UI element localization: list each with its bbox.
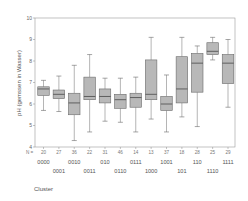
n-count: 20: [41, 150, 47, 155]
iqr-box: [161, 96, 173, 110]
n-count: 46: [118, 150, 124, 155]
n-count: 25: [210, 150, 216, 155]
category-label: 1110: [207, 168, 219, 174]
n-count: 29: [225, 150, 231, 155]
n-count: 14: [133, 150, 139, 155]
category-label: 0110: [114, 168, 126, 174]
box-1001: [161, 75, 173, 132]
y-tick-label: 8: [29, 58, 32, 64]
category-label: 1001: [160, 159, 172, 165]
iqr-box: [130, 93, 142, 107]
box-0111: [130, 77, 142, 132]
n-count: 36: [72, 150, 78, 155]
category-label: 0010: [68, 159, 80, 165]
box-0110: [115, 78, 127, 122]
n-count: 18: [179, 150, 185, 155]
n-prefix: N =: [26, 150, 34, 155]
n-count: 37: [164, 150, 170, 155]
category-label: 101: [177, 168, 186, 174]
iqr-box: [145, 60, 157, 100]
category-label: 110: [193, 159, 202, 165]
box-010: [99, 78, 111, 121]
iqr-box: [192, 53, 204, 92]
iqr-box: [207, 43, 219, 55]
plot-frame: [35, 18, 235, 147]
box-0011: [84, 55, 96, 132]
y-tick-label: 5: [29, 122, 32, 128]
category-label: 0011: [84, 168, 96, 174]
y-tick-label: 7: [29, 79, 32, 85]
category-label: 1000: [145, 168, 157, 174]
n-count: 28: [195, 150, 201, 155]
category-label: 010: [100, 159, 109, 165]
iqr-box: [69, 93, 81, 115]
iqr-box: [38, 87, 50, 96]
n-count: 13: [149, 150, 155, 155]
category-label: 0111: [130, 159, 142, 165]
box-110: [192, 46, 204, 127]
iqr-box: [222, 55, 234, 84]
plot-border: [35, 18, 235, 147]
y-axis-title: pH (gemssen in Wasser): [16, 50, 22, 116]
box-0010: [69, 65, 81, 140]
y-tick-label: 4: [29, 144, 32, 150]
y-tick-label: 10: [26, 15, 32, 21]
n-count: 27: [56, 150, 62, 155]
iqr-box: [115, 94, 127, 108]
boxplot-chart: 45678910 N =2000002700013600102200113101…: [0, 0, 248, 201]
iqr-box: [99, 89, 111, 103]
iqr-box: [176, 57, 188, 103]
box-1000: [145, 37, 157, 119]
n-count: 31: [102, 150, 108, 155]
x-axis: N =2000002700013600102200113101046011014…: [26, 147, 234, 174]
y-tick-label: 9: [29, 36, 32, 42]
box-1111: [222, 40, 234, 108]
category-label: 1111: [222, 159, 233, 165]
x-axis-title: Cluster: [34, 186, 53, 192]
boxes: [38, 37, 234, 140]
box-1110: [207, 37, 219, 60]
box-0000: [38, 80, 50, 110]
category-label: 0001: [53, 168, 65, 174]
category-label: 0000: [37, 159, 49, 165]
box-0001: [53, 76, 65, 111]
n-count: 22: [87, 150, 93, 155]
box-101: [176, 37, 188, 117]
y-axis: 45678910: [26, 15, 35, 150]
y-tick-label: 6: [29, 101, 32, 107]
